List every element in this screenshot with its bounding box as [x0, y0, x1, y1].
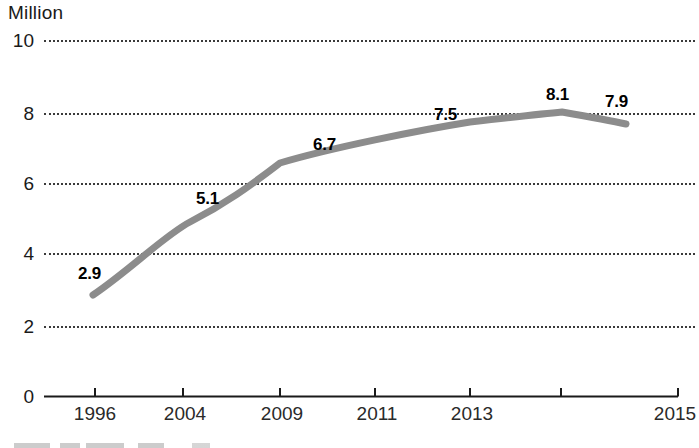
- value-label-2013: 8.1: [546, 86, 569, 103]
- value-label-2015: 7.9: [605, 93, 628, 110]
- x-tick-label-2015: 2015: [640, 404, 699, 423]
- x-tick-label-2004: 2004: [150, 404, 220, 423]
- x-tick-label-1996: 1996: [60, 404, 130, 423]
- value-label-1996: 2.9: [78, 265, 101, 282]
- plot-area: [0, 0, 699, 448]
- value-label-2004: 5.1: [196, 190, 219, 207]
- value-label-2009: 6.7: [313, 136, 336, 153]
- value-label-2011: 7.5: [434, 106, 457, 123]
- data-line-million: [93, 112, 626, 295]
- x-tick-label-2011: 2011: [342, 404, 412, 423]
- cropped-caption-fragment: [14, 443, 264, 448]
- x-tick-label-2009: 2009: [247, 404, 317, 423]
- line-chart: Million 10 8 6 4 2 0 1996 2004 2009 2011…: [0, 0, 699, 448]
- x-tick-label-2013: 2013: [437, 404, 507, 423]
